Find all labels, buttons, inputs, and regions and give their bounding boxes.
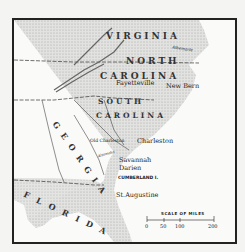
city-old-charleston: Old Charleston bbox=[90, 139, 124, 144]
city-st-augustine: St.Augustine bbox=[116, 192, 158, 199]
label-north-carolina-1: NORTH bbox=[126, 57, 180, 66]
scale-tick-50: 50 bbox=[160, 224, 166, 229]
island-cumberland: CUMBERLAND I. bbox=[118, 176, 158, 181]
scale-tick-200: 200 bbox=[208, 224, 218, 229]
scale-tick-100: 100 bbox=[175, 224, 185, 229]
city-savannah: Savannah bbox=[119, 157, 151, 164]
map-frame: VIRGINIA NORTH CAROLINA SOUTH CAROLINA G… bbox=[12, 18, 237, 244]
city-charleston: Charleston bbox=[137, 138, 173, 145]
scale-title: SCALE OF MILES bbox=[161, 212, 205, 216]
city-fayetteville: Fayetteville bbox=[116, 80, 154, 87]
label-virginia: VIRGINIA bbox=[106, 32, 180, 41]
label-south-carolina-2: CAROLINA bbox=[96, 112, 166, 120]
city-new-bern: New Bern bbox=[166, 83, 199, 90]
city-darien: Darien bbox=[119, 165, 141, 172]
label-south-carolina-1: SOUTH bbox=[98, 98, 144, 106]
scale-tick-0: 0 bbox=[145, 224, 148, 229]
